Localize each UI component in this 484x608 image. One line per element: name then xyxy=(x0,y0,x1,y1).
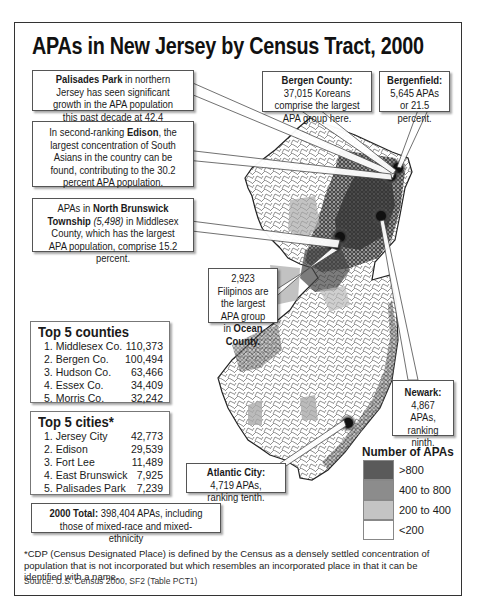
legend-swatch xyxy=(363,520,394,540)
top-cities-table: Top 5 cities* 1. Jersey City42,773 2. Ed… xyxy=(30,411,170,495)
table-row: 4. Essex Co.34,409 xyxy=(38,379,163,392)
legend-swatch xyxy=(363,460,394,480)
legend-swatch xyxy=(363,480,394,500)
table-row: 5. Palisades Park7,239 xyxy=(38,482,163,495)
table-row: 3. Fort Lee11,489 xyxy=(38,456,163,469)
table-row: 2. Bergen Co.100,494 xyxy=(38,353,163,366)
legend-title: Number of APAs xyxy=(362,444,454,459)
callout-edison: In second-ranking Edison, the largest co… xyxy=(32,121,194,187)
legend-item: 400 to 800 xyxy=(363,480,453,500)
legend-item: >800 xyxy=(363,460,453,480)
top-cities-heading: Top 5 cities* xyxy=(38,414,151,430)
callout-atlantic-city: Atlantic City: 4,719 APAs, ranking tenth… xyxy=(186,463,286,493)
table-row: 3. Hudson Co.63,466 xyxy=(38,366,163,379)
callout-newark: Newark: 4,867 APAs, ranking ninth. xyxy=(392,380,454,436)
source-note: Source: U.S. Census 2000, SF2 (Table PCT… xyxy=(24,576,197,586)
callout-bergen-county: Bergen County: 37,015 Koreans comprise t… xyxy=(262,71,372,112)
top-counties-table: Top 5 counties 1. Middlesex Co.110,373 2… xyxy=(30,321,170,403)
legend-item: 200 to 400 xyxy=(363,500,453,520)
callout-ocean-county: 2,923 Filipinos are the largest APA grou… xyxy=(208,268,278,323)
table-row: 2. Edison29,539 xyxy=(38,443,163,456)
table-row: 1. Jersey City42,773 xyxy=(38,430,163,443)
callout-north-brunswick: APAs in North Brunswick Township (5,498)… xyxy=(32,198,194,252)
top-counties-heading: Top 5 counties xyxy=(38,324,151,340)
legend-swatch xyxy=(363,500,394,520)
table-row: 5. Morris Co.32,242 xyxy=(38,392,163,405)
table-row: 4. East Brunswick7,925 xyxy=(38,469,163,482)
callout-palisades-park: Palisades Park in northern Jersey has se… xyxy=(32,70,194,111)
callout-bergenfield: Bergenfield: 5,645 APAs or 21.5 percent. xyxy=(379,71,450,112)
legend-item: <200 xyxy=(363,520,453,540)
table-row: 1. Middlesex Co.110,373 xyxy=(38,340,163,353)
total-box: 2000 Total: 398,404 APAs, including thos… xyxy=(31,503,221,533)
